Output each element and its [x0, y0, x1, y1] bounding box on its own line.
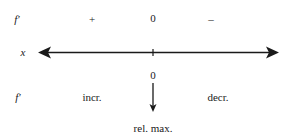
axis-graphics [0, 0, 298, 137]
derivative-label-bottom: f′ [15, 91, 20, 103]
right-behavior-decreasing: decr. [207, 91, 228, 103]
left-behavior-increasing: incr. [82, 91, 101, 103]
conclusion-relative-max: rel. max. [134, 122, 173, 134]
critical-value-bottom: 0 [150, 69, 156, 81]
